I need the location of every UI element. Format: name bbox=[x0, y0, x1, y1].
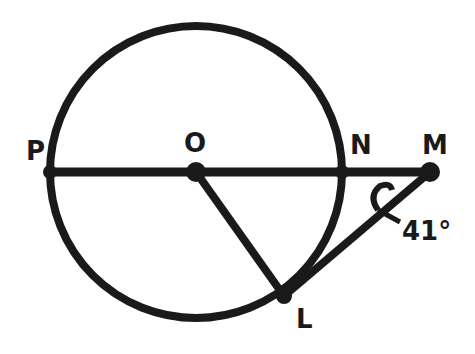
label-m: M bbox=[422, 130, 448, 160]
geometry-diagram: P O N M L 41° bbox=[0, 0, 475, 354]
label-o: O bbox=[184, 128, 206, 158]
label-n: N bbox=[350, 130, 372, 160]
radius-ol bbox=[196, 172, 284, 296]
point-n bbox=[335, 165, 349, 179]
point-o bbox=[186, 162, 206, 182]
label-p: P bbox=[26, 136, 45, 166]
point-m bbox=[420, 162, 440, 182]
point-p bbox=[43, 165, 57, 179]
point-l bbox=[276, 288, 292, 304]
angle-label: 41° bbox=[402, 216, 451, 246]
label-l: L bbox=[296, 304, 313, 334]
